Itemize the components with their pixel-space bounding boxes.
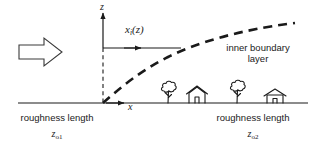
incoming-flow-arrow [19, 38, 62, 66]
inner-boundary-layer-label: inner boundarylayer [206, 42, 310, 64]
house-icon [187, 86, 208, 103]
house-icon [264, 89, 286, 103]
roughness-length-label-left: roughness length [2, 112, 112, 123]
z01-subscript: o1 [55, 133, 62, 141]
ibl-label-line-1: inner boundary [226, 42, 289, 53]
height-indicator-label: xi(z) [125, 23, 144, 38]
ibl-label-line-2: layer [248, 53, 269, 64]
roughness-symbol-right: zo2 [194, 128, 312, 141]
roughness-length-label-right: roughness length [194, 112, 312, 123]
tree-icon [161, 81, 176, 103]
diagram-canvas [0, 0, 322, 148]
z-axis-label: z [100, 1, 104, 13]
tree-icon [230, 80, 245, 103]
z02-subscript: o2 [251, 133, 258, 141]
x-axis-label: x [128, 101, 132, 113]
formula-tail: (z) [132, 23, 144, 35]
ground-objects [161, 80, 286, 103]
inner-boundary-layer-figure: z x xi(z) inner boundarylayer roughness … [0, 0, 322, 148]
roughness-symbol-left: zo1 [2, 128, 112, 141]
